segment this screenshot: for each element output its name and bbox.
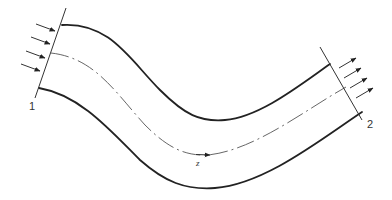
outlet-flow-arrows <box>339 58 373 98</box>
inlet-arrow <box>31 37 50 44</box>
centerline <box>51 53 346 155</box>
z-label: z <box>195 158 200 168</box>
curved-channel-diagram: z 1 2 <box>0 0 392 200</box>
outlet-section-label: 2 <box>367 118 373 130</box>
inlet-flow-arrows <box>21 24 55 71</box>
outlet-arrow <box>350 78 367 88</box>
inlet-arrow <box>26 51 45 58</box>
outlet-arrow <box>339 58 356 68</box>
inlet-section-line <box>35 8 66 98</box>
upper-wall <box>62 25 330 120</box>
z-direction-arrow <box>196 155 210 156</box>
inlet-arrow <box>21 64 40 71</box>
inlet-section-label: 1 <box>29 100 35 112</box>
outlet-arrow <box>344 68 361 78</box>
outlet-arrow <box>356 88 373 98</box>
inlet-arrow <box>36 24 55 31</box>
lower-wall <box>39 88 362 188</box>
